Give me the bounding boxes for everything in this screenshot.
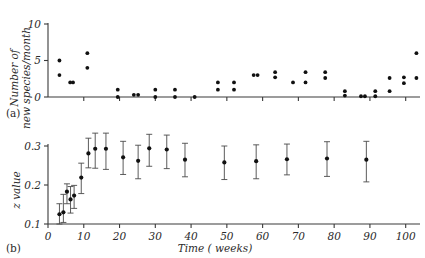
panel-b-data-point — [57, 212, 61, 216]
panel-a-data-point — [252, 73, 256, 77]
panel-b-y-tick-label: 0.1 — [24, 218, 41, 230]
panel-a-data-point — [216, 81, 220, 85]
panel-a-data-point — [402, 75, 406, 79]
panel-a-data-point — [58, 59, 62, 63]
panel-a-y-tick-label: 0 — [34, 91, 41, 103]
panel-a-data-point — [343, 94, 347, 98]
panel-b-x-tick-label: 60 — [256, 230, 270, 242]
panel-b-x-tick-label: 90 — [363, 230, 377, 242]
panel-a-tag: (a) — [6, 107, 20, 119]
panel-a-data-point — [193, 95, 197, 99]
panel-a-data-point — [415, 76, 419, 80]
panel-a-data-point — [388, 89, 392, 93]
panel-b-data-point — [79, 175, 83, 179]
panel-a-data-point — [256, 73, 260, 77]
panel-b-data-point — [222, 160, 226, 164]
panel-b-x-tick-label: 30 — [149, 230, 163, 242]
panel-a-data-point — [232, 88, 236, 92]
panel-a-data-point — [85, 51, 89, 55]
panel-b-data-point — [183, 158, 187, 162]
panel-a-data-point — [58, 73, 62, 77]
panel-b-data-point — [285, 157, 289, 161]
panel-a-data-point — [304, 81, 308, 85]
panel-a-y-axis-title-line1: Number of — [8, 47, 20, 108]
panel-b-data-point — [165, 147, 169, 151]
panel-b-tag: (b) — [6, 242, 21, 254]
panel-a-data-point — [359, 94, 363, 98]
panel-b-data-point — [121, 155, 125, 159]
panel-a-data-point — [136, 93, 140, 97]
panel-b-data-point — [68, 197, 72, 201]
panel-b-x-tick-label: 100 — [396, 230, 416, 242]
panel-a-data-point — [232, 81, 236, 85]
panel-b-x-tick-label: 80 — [327, 230, 341, 242]
panel-a-data-point — [402, 81, 406, 85]
panel-b-data-point — [136, 159, 140, 163]
panel-a-data-point — [71, 81, 75, 85]
panel-b-y-tick-label: 0.3 — [24, 140, 41, 152]
panel-a-data-point — [323, 70, 327, 74]
panel-b-data-point — [147, 146, 151, 150]
panel-a-data-point — [173, 88, 177, 92]
panel-b-x-axis-title: Time ( weeks) — [178, 242, 253, 254]
panel-a-data-point — [85, 66, 89, 70]
panel-b-x-tick-label: 70 — [292, 230, 306, 242]
panel-b-data-point — [254, 159, 258, 163]
panel-b-data-point — [104, 147, 108, 151]
panel-a-data-point — [343, 89, 347, 93]
panel-a-data-point — [373, 94, 377, 98]
panel-b-data-point — [65, 190, 69, 194]
panel-b-data-point — [72, 193, 76, 197]
panel-b-data-point — [93, 147, 97, 151]
panel-a-data-point — [132, 93, 136, 97]
panel-a-data-point — [291, 81, 295, 85]
scientific-figure: 0510Number ofnew species/month(a)0.10.20… — [0, 0, 425, 258]
panel-a-data-point — [273, 70, 277, 74]
panel-b-x-tick-label: 10 — [77, 230, 91, 242]
panel-a-data-point — [216, 88, 220, 92]
panel-b-data-point — [325, 156, 329, 160]
panel-a-data-point — [153, 88, 157, 92]
panel-a-data-point — [304, 70, 308, 74]
panel-a-data-point — [373, 89, 377, 93]
panel-a-y-tick-label: 5 — [34, 54, 41, 66]
figure-container: 0510Number ofnew species/month(a)0.10.20… — [0, 0, 425, 258]
panel-b-y-tick-label: 0.2 — [24, 179, 41, 191]
panel-a-data-point — [323, 76, 327, 80]
panel-a-data-point — [388, 76, 392, 80]
panel-a-y-axis-title-line2: new species/month — [20, 27, 32, 129]
panel-b-data-point — [364, 158, 368, 162]
panel-b-data-point — [86, 151, 90, 155]
panel-a-data-point — [415, 51, 419, 55]
panel-b-x-tick-label: 40 — [183, 230, 198, 242]
panel-a-data-point — [363, 94, 367, 98]
panel-b-y-axis-title: z value — [10, 171, 22, 209]
panel-b-x-tick-label: 20 — [112, 230, 127, 242]
panel-b-x-tick-label: 50 — [220, 230, 234, 242]
panel-a-data-point — [116, 88, 120, 92]
panel-b-data-point — [61, 210, 65, 214]
panel-a-data-point — [173, 95, 177, 99]
panel-a-data-point — [116, 95, 120, 99]
panel-b-x-tick-label: 0 — [45, 230, 52, 242]
panel-a-data-point — [153, 95, 157, 99]
panel-a-data-point — [273, 75, 277, 79]
